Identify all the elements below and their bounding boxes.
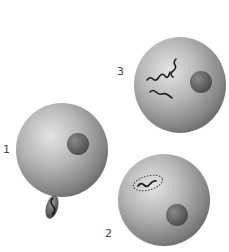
cell-1-polar-body	[43, 194, 61, 220]
cell-2-nucleolus	[166, 204, 188, 226]
cell-2	[118, 154, 210, 246]
cell-1-body	[16, 103, 108, 197]
label-2: 2	[105, 228, 112, 239]
figure: 3 1 2	[0, 0, 229, 252]
cell-3-nucleolus	[190, 71, 212, 93]
cell-1-nucleolus	[67, 133, 89, 155]
cell-3-body	[134, 37, 226, 133]
cell-3	[134, 37, 226, 133]
cell-2-body	[118, 154, 210, 246]
label-3: 3	[117, 66, 124, 77]
cell-1	[16, 103, 108, 220]
label-1: 1	[3, 144, 10, 155]
cells-illustration	[0, 0, 229, 252]
